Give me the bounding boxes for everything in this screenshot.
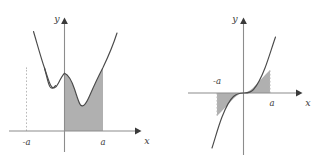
shaded-region-odd-left bbox=[217, 93, 244, 116]
tick-label-a-even: a bbox=[100, 137, 105, 147]
panel-odd-function: -a a y x bbox=[160, 0, 320, 165]
tick-label-minus-a-odd: -a bbox=[213, 76, 221, 86]
x-axis-arrow-odd bbox=[296, 90, 303, 97]
y-axis-arrow-odd bbox=[240, 18, 247, 25]
x-axis-label-odd: x bbox=[305, 97, 311, 108]
panel-even-function: -a a y x bbox=[0, 0, 160, 165]
x-axis-label-even: x bbox=[144, 135, 150, 146]
tick-label-minus-a-even: -a bbox=[23, 137, 31, 147]
shaded-region-even bbox=[65, 68, 104, 132]
tick-label-a-odd: a bbox=[269, 98, 274, 108]
x-axis-arrow-even bbox=[135, 128, 142, 135]
y-axis-label-even: y bbox=[53, 13, 60, 24]
shaded-region-odd-right bbox=[244, 70, 271, 93]
y-axis-label-odd: y bbox=[231, 13, 238, 24]
y-axis-arrow-even bbox=[61, 18, 68, 25]
figure-root: -a a y x -a a bbox=[0, 0, 320, 165]
